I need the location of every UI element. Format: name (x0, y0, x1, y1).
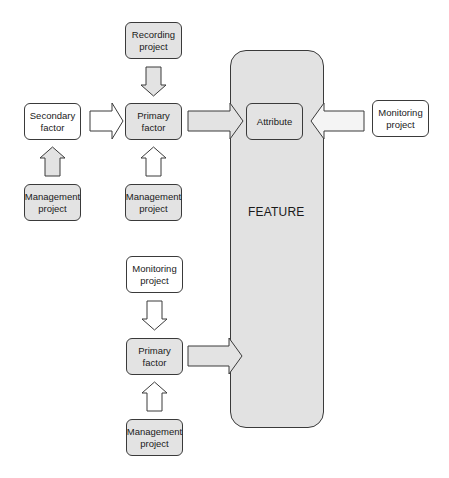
attribute-node: Attribute (246, 103, 303, 140)
arrows-layer (0, 0, 449, 478)
arrow-up-icon (40, 147, 65, 176)
management-project-bottom-node: Management project (126, 419, 183, 456)
node-label: Recording project (126, 29, 181, 53)
management-project-top-node: Management project (125, 184, 182, 221)
node-label: Secondary factor (25, 110, 80, 134)
node-label: Attribute (257, 116, 292, 128)
arrow-up-icon (141, 147, 166, 176)
management-project-left-node: Management project (24, 184, 81, 221)
node-label: Monitoring project (127, 263, 182, 287)
arrow-right-icon (188, 338, 242, 374)
monitoring-project-right-node: Monitoring project (372, 100, 429, 137)
node-label: Primary factor (126, 110, 181, 134)
node-label: Primary factor (127, 345, 182, 369)
secondary-factor-node: Secondary factor (24, 103, 81, 140)
node-label: Management project (127, 426, 182, 450)
primary-factor-bottom-node: Primary factor (126, 338, 183, 375)
arrow-left-icon (311, 103, 364, 139)
arrow-right-icon (90, 103, 123, 139)
diagram-canvas: FEATURE Recording project Secondary fact… (0, 0, 449, 478)
arrow-down-icon (141, 67, 166, 96)
primary-factor-top-node: Primary factor (125, 103, 182, 140)
arrow-right-icon (188, 103, 243, 139)
node-label: Management project (25, 191, 80, 215)
arrow-up-icon (142, 382, 167, 411)
recording-project-node: Recording project (125, 22, 182, 59)
node-label: Monitoring project (373, 107, 428, 131)
node-label: Management project (126, 191, 181, 215)
monitoring-project-bottom-node: Monitoring project (126, 256, 183, 293)
arrow-down-icon (142, 301, 167, 330)
